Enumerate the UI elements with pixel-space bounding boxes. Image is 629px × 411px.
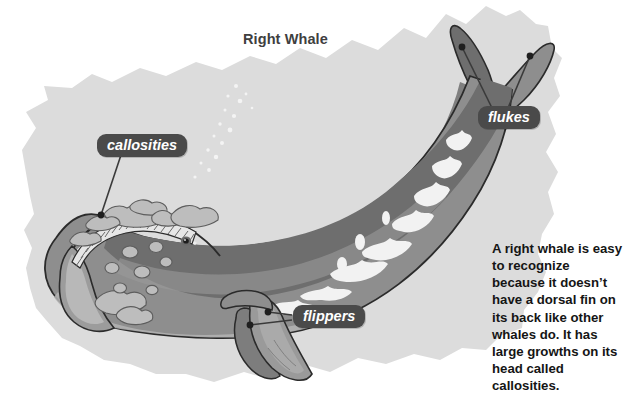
figure-canvas: Right Whale callosities flukes flippers … xyxy=(0,0,629,411)
callout-label-flukes[interactable]: flukes xyxy=(478,106,540,129)
callout-label-callosities[interactable]: callosities xyxy=(97,134,187,157)
description-text: A right whale is easy to recognize becau… xyxy=(492,240,624,394)
page-title: Right Whale xyxy=(243,31,328,47)
callout-label-flippers[interactable]: flippers xyxy=(293,305,365,328)
whale-eye xyxy=(181,236,191,245)
